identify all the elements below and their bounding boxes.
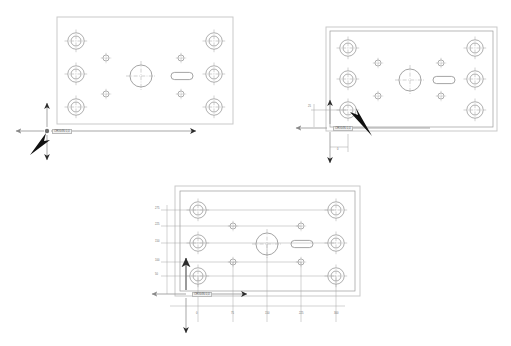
y-dimension-label-4: 100 bbox=[155, 259, 159, 262]
hole-large-left-mid[interactable] bbox=[337, 68, 360, 91]
x-dimension-label-5: 300 bbox=[334, 312, 338, 315]
center-bore[interactable] bbox=[395, 65, 425, 95]
plate-view-2[interactable] bbox=[296, 27, 497, 163]
cursor-icon bbox=[350, 108, 372, 136]
hole-large-left-bottom[interactable] bbox=[65, 96, 88, 119]
hole-large-right-top[interactable] bbox=[203, 30, 226, 53]
plate-view-3[interactable] bbox=[152, 186, 360, 333]
origin-label-view2: ORIGIN 0,0 bbox=[333, 126, 353, 131]
hole-large-right-mid[interactable] bbox=[203, 63, 226, 86]
dimension-value-x-view2: 0 bbox=[337, 148, 338, 151]
origin-axes-view1 bbox=[16, 103, 196, 160]
y-dimension-label-1: 275 bbox=[155, 207, 159, 210]
hole-small-inner-left-upper[interactable] bbox=[373, 58, 383, 68]
center-bore[interactable] bbox=[126, 61, 156, 91]
y-dimension-label-2: 225 bbox=[155, 223, 159, 226]
hole-group-view2 bbox=[337, 37, 487, 122]
cursor-arrow-view2 bbox=[350, 108, 372, 136]
hole-large-left-mid[interactable] bbox=[65, 63, 88, 86]
origin-label-view3: ORIGIN 0,0 bbox=[192, 292, 212, 297]
hole-small-inner-left-lower[interactable] bbox=[101, 89, 111, 99]
origin-point[interactable] bbox=[45, 129, 49, 133]
x-dimension-label-3: 150 bbox=[265, 312, 269, 315]
hole-small-inner-right-upper[interactable] bbox=[176, 53, 186, 63]
hole-large-right-mid[interactable] bbox=[464, 68, 487, 91]
x-dimension-ladder bbox=[170, 244, 345, 322]
x-dimension-label-2: 75 bbox=[231, 312, 234, 315]
y-dimension-ladder bbox=[161, 205, 336, 294]
hole-small-inner-right-lower[interactable] bbox=[176, 89, 186, 99]
hole-small-inner-right-lower[interactable] bbox=[436, 91, 446, 101]
dimension-value-y-view2: 25 bbox=[308, 105, 311, 108]
obround-slot[interactable] bbox=[171, 72, 193, 79]
origin-label-view1: ORIGIN 0,0 bbox=[52, 129, 72, 134]
x-dimension-label-1: 0 bbox=[196, 312, 197, 315]
y-dimension-label-3: 150 bbox=[155, 240, 159, 243]
hole-small-inner-left-upper[interactable] bbox=[101, 53, 111, 63]
hole-small-inner-right-upper[interactable] bbox=[436, 58, 446, 68]
hole-large-left-top[interactable] bbox=[65, 30, 88, 53]
plate-view-1[interactable] bbox=[16, 17, 233, 160]
hole-small-inner-left-lower[interactable] bbox=[373, 91, 383, 101]
hole-large-right-top[interactable] bbox=[464, 37, 487, 60]
hole-large-right-bottom[interactable] bbox=[203, 96, 226, 119]
hole-large-right-bottom[interactable] bbox=[464, 99, 487, 122]
cad-drawing-canvas bbox=[0, 0, 511, 346]
hole-large-left-top[interactable] bbox=[337, 37, 360, 60]
obround-slot[interactable] bbox=[291, 240, 313, 247]
obround-slot[interactable] bbox=[433, 76, 455, 83]
hole-group-view1 bbox=[65, 30, 226, 119]
y-dimension-label-5: 50 bbox=[155, 273, 158, 276]
x-dimension-label-4: 225 bbox=[299, 312, 303, 315]
